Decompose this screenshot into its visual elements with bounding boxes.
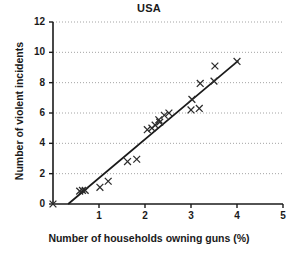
data-points xyxy=(50,58,241,207)
y-tick-label-12: 12 xyxy=(25,16,45,27)
data-point-marker xyxy=(124,158,131,165)
y-tick-label-0: 0 xyxy=(25,198,45,209)
y-tick-label-10: 10 xyxy=(25,46,45,57)
data-point-marker xyxy=(211,78,218,85)
y-tick-label-4: 4 xyxy=(25,137,45,148)
data-point-marker xyxy=(197,80,204,87)
data-point-marker xyxy=(212,63,219,70)
gridlines xyxy=(53,22,283,174)
x-axis-label: Number of households owning guns (%) xyxy=(0,232,298,244)
data-point-marker xyxy=(133,156,140,163)
data-point-marker xyxy=(189,96,196,103)
y-tick-label-2: 2 xyxy=(25,168,45,179)
x-tick-label-3: 3 xyxy=(183,210,199,221)
data-point-marker xyxy=(97,184,104,191)
x-tick-label-2: 2 xyxy=(137,210,153,221)
x-tick-label-1: 1 xyxy=(91,210,107,221)
y-tick-label-6: 6 xyxy=(25,107,45,118)
x-tick-label-5: 5 xyxy=(275,210,291,221)
y-tick-label-8: 8 xyxy=(25,77,45,88)
data-point-marker xyxy=(234,58,241,65)
chart-figure: USA 024681012 012345 Number of household… xyxy=(0,0,298,255)
data-point-marker xyxy=(188,107,195,114)
x-tick-label-4: 4 xyxy=(229,210,245,221)
data-point-marker xyxy=(105,178,112,185)
data-point-marker xyxy=(196,105,203,112)
y-axis-label: Number of violent incidents xyxy=(13,31,25,191)
axis-ticks xyxy=(49,22,283,208)
